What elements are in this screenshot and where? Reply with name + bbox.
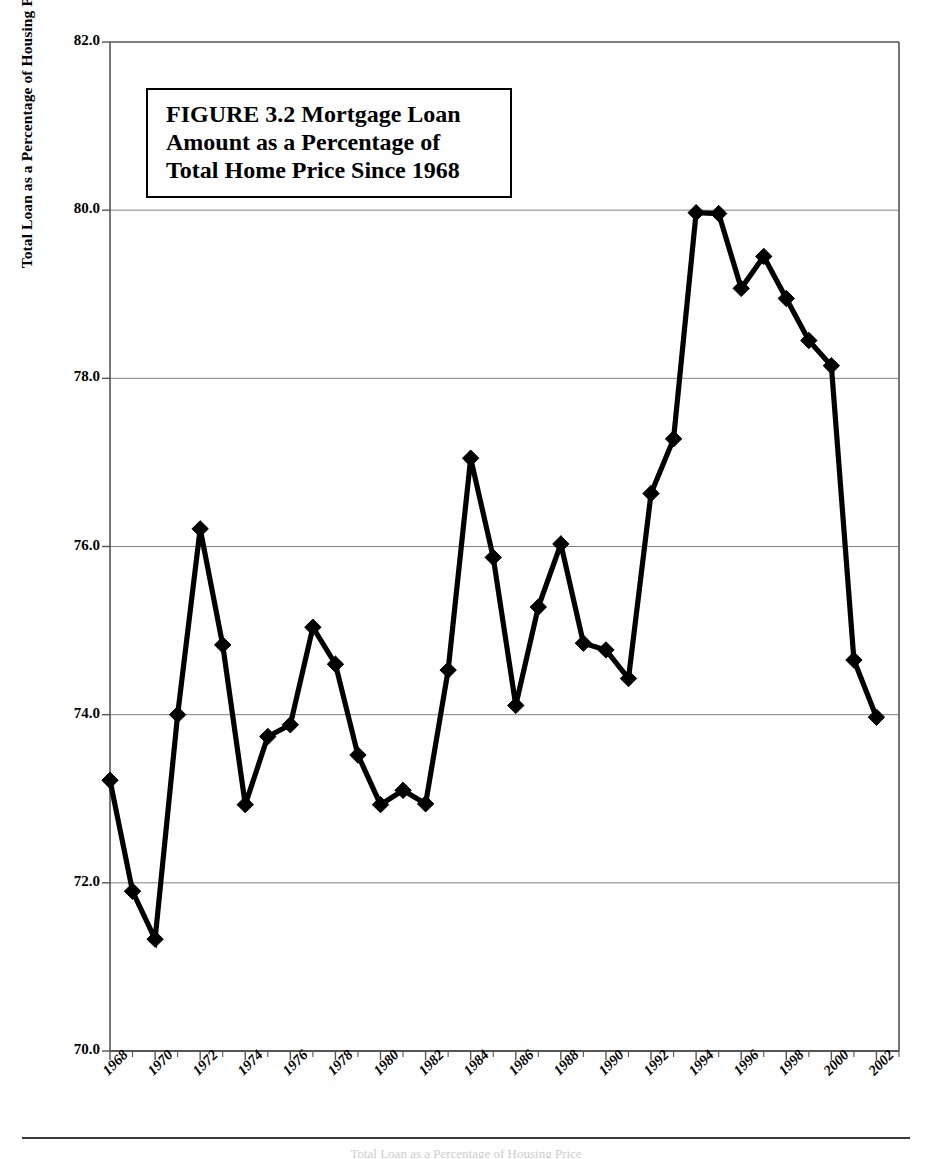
x-tick-label: 1970 — [144, 1046, 177, 1079]
x-tick-label: 1990 — [595, 1046, 628, 1079]
x-tick-label: 1992 — [640, 1046, 673, 1079]
figure-title-box: FIGURE 3.2 Mortgage Loan Amount as a Per… — [146, 88, 512, 198]
x-tick-label: 1976 — [279, 1046, 312, 1079]
x-tick-label: 1974 — [234, 1046, 267, 1079]
x-tick-label: 1988 — [550, 1046, 583, 1079]
x-tick-label: 1994 — [685, 1046, 718, 1079]
x-tick-label: 1968 — [99, 1046, 132, 1079]
figure-title-line-3: Total Home Price Since 1968 — [166, 156, 496, 184]
x-tick-label: 1986 — [505, 1046, 538, 1079]
figure-title-line-2: Amount as a Percentage of — [166, 128, 496, 156]
x-tick-label: 2002 — [865, 1046, 898, 1079]
x-tick-label: 1998 — [775, 1046, 808, 1079]
bottom-caption-text: Total Loan as a Percentage of Housing Pr… — [22, 1146, 910, 1158]
x-tick-label: 1982 — [415, 1046, 448, 1079]
x-tick-label: 1978 — [324, 1046, 357, 1079]
x-tick-label: 1984 — [460, 1046, 493, 1079]
x-tick-label: 1972 — [189, 1046, 222, 1079]
x-tick-label: 1980 — [370, 1046, 403, 1079]
x-tick-label: 1996 — [730, 1046, 763, 1079]
figure-title-line-1: FIGURE 3.2 Mortgage Loan — [166, 100, 496, 128]
x-tick-label: 2000 — [820, 1046, 853, 1079]
bottom-divider-rule — [22, 1137, 910, 1139]
figure-container: Total Loan as a Percentage of Housing Pr… — [0, 0, 932, 1159]
